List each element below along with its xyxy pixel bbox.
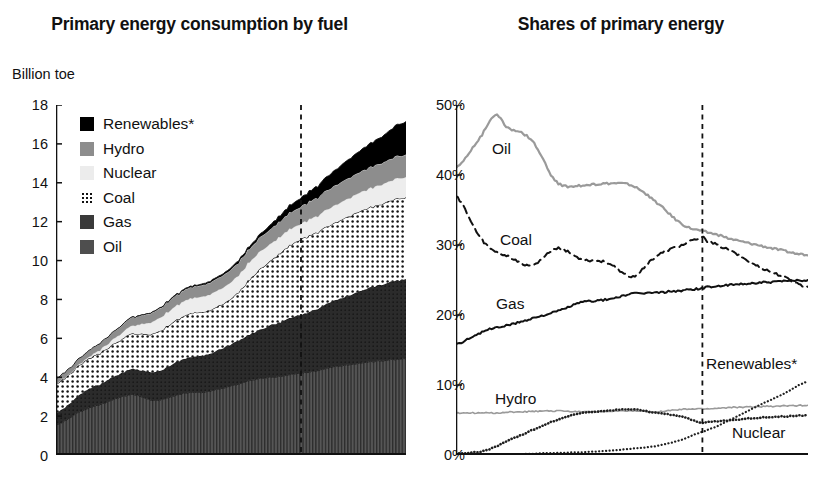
legend-label-renewables: Renewables*	[103, 115, 194, 133]
y-tick-2: 2	[8, 410, 48, 425]
legend-item-gas: Gas	[80, 210, 194, 235]
legend-label-hydro: Hydro	[103, 140, 144, 158]
legend-label-nuclear: Nuclear	[103, 164, 156, 182]
legend-item-nuclear: Nuclear	[80, 161, 194, 186]
y-tick-18: 18	[8, 98, 48, 113]
gas-swatch-icon	[80, 215, 94, 229]
legend: Renewables* Hydro Nuclear Coal Gas Oil	[80, 112, 194, 259]
page-title-right: Shares of primary energy	[417, 14, 833, 35]
coal-swatch-icon	[80, 191, 94, 205]
series-label-renewables: Renewables*	[706, 355, 797, 373]
legend-item-coal: Coal	[80, 186, 194, 211]
hydro-swatch-icon	[80, 142, 94, 156]
series-label-hydro: Hydro	[495, 390, 536, 408]
legend-label-coal: Coal	[103, 189, 135, 207]
y-axis-unit-label: Billion toe	[12, 66, 75, 82]
page-title-left: Primary energy consumption by fuel	[0, 14, 417, 35]
series-label-gas: Gas	[496, 295, 524, 313]
renewables-swatch-icon	[80, 117, 94, 131]
y-tick-12: 12	[8, 215, 48, 230]
oil-swatch-icon	[80, 240, 94, 254]
series-label-nuclear: Nuclear	[732, 424, 785, 442]
y-tick-8: 8	[8, 293, 48, 308]
legend-label-oil: Oil	[103, 238, 122, 256]
y-tick-6: 6	[8, 332, 48, 347]
y-tick-14: 14	[8, 176, 48, 191]
y-tick-4: 4	[8, 371, 48, 386]
legend-item-hydro: Hydro	[80, 137, 194, 162]
legend-label-gas: Gas	[103, 213, 131, 231]
nuclear-swatch-icon	[80, 166, 94, 180]
series-label-coal: Coal	[500, 231, 532, 249]
series-label-oil: Oil	[492, 140, 511, 158]
y-tick-10: 10	[8, 254, 48, 269]
panel-shares-of-primary-energy: Shares of primary energy 50% 40% 30% 20%…	[417, 0, 833, 495]
legend-item-oil: Oil	[80, 235, 194, 260]
legend-item-renewables: Renewables*	[80, 112, 194, 137]
y-tick-16: 16	[8, 137, 48, 152]
y-tick-0: 0	[8, 449, 48, 464]
panel-primary-energy-consumption: Primary energy consumption by fuel Billi…	[0, 0, 417, 495]
